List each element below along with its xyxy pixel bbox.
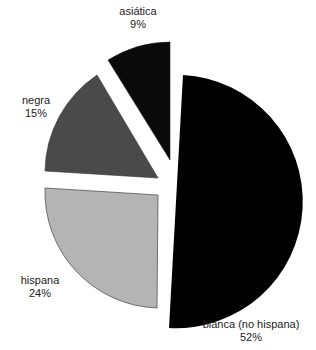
slice-blanca [169,75,303,328]
label-negra: negra 15% [20,94,52,120]
label-negra-value: 15% [20,107,52,120]
label-hispana-name: hispana [18,274,62,287]
label-blanca: blanca (no hispana) 52% [196,318,306,344]
pie-chart: asiática 9% negra 15% hispana 24% blanca… [0,0,316,350]
label-blanca-name: blanca (no hispana) [196,318,306,331]
label-blanca-value: 52% [196,331,306,344]
label-negra-name: negra [20,94,52,107]
label-hispana-value: 24% [18,287,62,300]
label-asiatica: asiática 9% [116,5,160,31]
label-asiatica-name: asiática [116,5,160,18]
label-asiatica-value: 9% [116,18,160,31]
label-hispana: hispana 24% [18,274,62,300]
